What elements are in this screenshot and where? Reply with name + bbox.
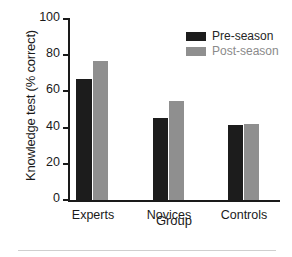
chart-figure: Knowledge test (% correct) 0 20 40 60 80… [0, 0, 292, 257]
y-tick-label-0: 0 [53, 191, 60, 205]
chart-legend: Pre-season Post-season [186, 30, 279, 60]
bar-controls-post-season [244, 124, 259, 200]
bar-experts-post-season [93, 61, 108, 200]
legend-swatch-icon-pre-season [186, 32, 206, 41]
y-tick-label-80: 80 [46, 46, 60, 60]
y-tick-80: 80 [63, 54, 69, 56]
footer-divider [18, 250, 276, 251]
legend-label-post-season: Post-season [212, 45, 279, 58]
x-axis-line [68, 200, 280, 202]
y-axis-line [68, 18, 70, 201]
y-tick-label-20: 20 [46, 155, 60, 169]
bar-controls-pre-season [228, 125, 243, 201]
y-tick-label-100: 100 [39, 10, 60, 24]
y-tick-60: 60 [63, 90, 69, 92]
bar-experts-pre-season [76, 79, 92, 200]
y-tick-label-40: 40 [46, 119, 60, 133]
legend-label-pre-season: Pre-season [212, 30, 273, 43]
legend-swatch-icon-post-season [186, 47, 206, 56]
y-tick-20: 20 [63, 163, 69, 165]
legend-item-pre-season: Pre-season [186, 30, 279, 43]
bar-novices-pre-season [153, 118, 168, 200]
bar-novices-post-season [169, 101, 184, 200]
y-tick-100: 100 [63, 18, 69, 20]
y-tick-0: 0 [63, 199, 69, 201]
y-axis-title: Knowledge test (% correct) [23, 1, 38, 211]
y-tick-label-60: 60 [46, 82, 60, 96]
x-axis-title: Group [68, 213, 280, 228]
y-tick-40: 40 [63, 127, 69, 129]
legend-item-post-season: Post-season [186, 45, 279, 58]
